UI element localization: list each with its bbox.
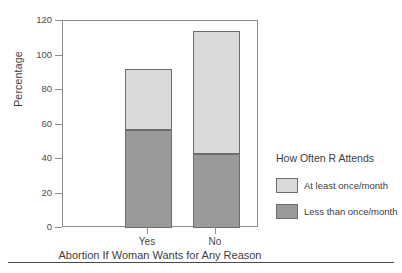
- legend-label: At least once/month: [304, 180, 388, 191]
- bar-segment: [193, 154, 240, 228]
- y-axis-tick-label: 100: [22, 49, 52, 60]
- stacked-bar-chart-figure: Percentage 020406080100120 YesNo Abortio…: [0, 0, 402, 273]
- legend-label: Less than once/month: [304, 206, 397, 217]
- plot-area: [62, 20, 258, 227]
- legend-swatch: [276, 204, 298, 219]
- legend-title: How Often R Attends: [276, 152, 400, 164]
- y-axis-tick-mark: [55, 193, 62, 194]
- legend-entries: At least once/monthLess than once/month: [276, 178, 400, 219]
- x-axis-tick-label: Yes: [112, 236, 182, 247]
- legend: How Often R Attends At least once/monthL…: [276, 152, 400, 230]
- y-axis-tick-label: 40: [22, 152, 52, 163]
- y-axis-tick-mark: [55, 55, 62, 56]
- y-axis-tick-mark: [55, 124, 62, 125]
- y-axis-tick-mark: [55, 158, 62, 159]
- bar-segment: [193, 31, 240, 153]
- legend-item: Less than once/month: [276, 204, 400, 219]
- y-axis-tick-label: 120: [22, 14, 52, 25]
- y-axis-tick-mark: [55, 89, 62, 90]
- y-axis-tick-mark: [55, 227, 62, 228]
- y-axis-tick-label: 20: [22, 187, 52, 198]
- y-axis-tick-label: 80: [22, 83, 52, 94]
- bar-segment: [125, 130, 172, 228]
- y-axis-tick-label: 60: [22, 118, 52, 129]
- footer-divider: [8, 262, 394, 263]
- legend-swatch: [276, 178, 298, 193]
- x-axis-tick-mark: [215, 227, 216, 234]
- x-axis-title: Abortion If Woman Wants for Any Reason: [30, 249, 290, 261]
- x-axis-tick-label: No: [180, 236, 250, 247]
- x-axis-tick-mark: [147, 227, 148, 234]
- legend-item: At least once/month: [276, 178, 400, 193]
- bar-segment: [125, 69, 172, 129]
- y-axis-title: Percentage: [12, 34, 24, 124]
- y-axis-tick-label: 0: [22, 221, 52, 232]
- y-axis-tick-mark: [55, 20, 62, 21]
